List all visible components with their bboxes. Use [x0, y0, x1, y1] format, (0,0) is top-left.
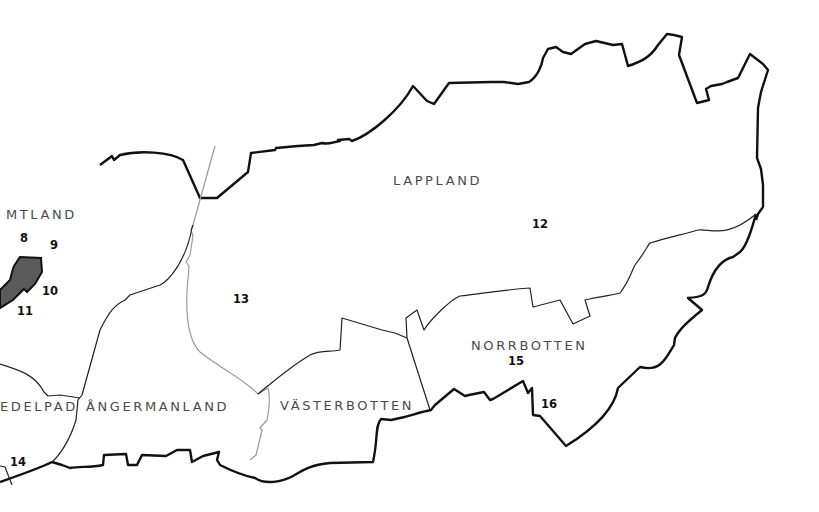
region-label-norrbotten: NORRBOTTEN	[471, 338, 588, 353]
region-label-jamtland: MTLAND	[6, 207, 77, 222]
region-label-medelpad: EDELPAD	[0, 399, 78, 414]
map-canvas	[0, 0, 819, 512]
number-label-9: 9	[50, 238, 58, 252]
angermanland-boundary	[52, 225, 193, 462]
highlighted-area	[0, 257, 42, 308]
number-label-10: 10	[42, 284, 58, 298]
region-label-angermanland: ÅNGERMANLAND	[86, 399, 229, 414]
region-label-lappland: LAPPLAND	[393, 173, 482, 188]
region-label-vasterbotten: VÄSTERBOTTEN	[280, 398, 414, 413]
number-label-8: 8	[20, 231, 28, 245]
number-label-14: 14	[10, 455, 26, 469]
number-label-11: 11	[17, 304, 33, 318]
number-label-16: 16	[541, 397, 557, 411]
lappland-inner-boundary	[258, 214, 756, 394]
number-label-12: 12	[532, 217, 548, 231]
number-label-13: 13	[233, 292, 249, 306]
outer-border	[100, 34, 768, 220]
medelpad-boundary	[0, 364, 80, 398]
number-label-15: 15	[508, 354, 524, 368]
